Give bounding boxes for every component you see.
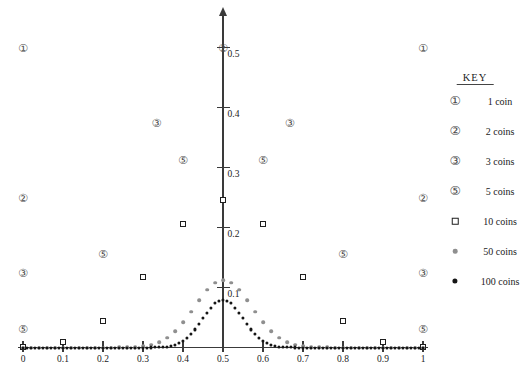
marker-black-dot [297, 346, 300, 349]
marker-black-dot [81, 346, 84, 349]
marker-gray-dot [165, 336, 169, 340]
marker-open-square [300, 274, 306, 280]
marker-open-square [140, 274, 146, 280]
marker-black-dot [241, 317, 244, 320]
marker-gray-dot [261, 321, 265, 325]
marker-black-dot [177, 342, 180, 345]
circled-5-legend-icon: ⑤ [449, 185, 460, 198]
marker-gray-dot [277, 336, 281, 340]
marker-black-dot [65, 346, 68, 349]
marker-black-dot [153, 346, 156, 349]
x-tick-label: 0.1 [57, 354, 69, 364]
marker-black-dot [353, 346, 356, 349]
marker-black-dot [217, 299, 220, 302]
chart-key: KEY ①1 coin②2 coins③3 coins⑤5 coins10 co… [430, 64, 520, 304]
marker-black-dot [201, 317, 204, 320]
y-tick-label: 0.3 [228, 169, 240, 179]
marker-black-dot [385, 346, 388, 349]
y-axis-arrow-icon [219, 7, 227, 16]
circled-1-legend-icon: ① [449, 95, 460, 108]
marker-black-dot [285, 346, 288, 349]
marker-black-dot [321, 346, 324, 349]
legend-label: 100 coins [481, 276, 520, 287]
y-tick-label: 0.4 [228, 109, 240, 119]
marker-gray-dot [181, 321, 185, 325]
marker-black-dot [301, 346, 304, 349]
marker-black-dot [97, 346, 100, 349]
marker-black-dot [145, 346, 148, 349]
marker-open-square [340, 318, 346, 324]
marker-gray-dot [205, 288, 209, 292]
circled-3-legend-icon: ③ [449, 155, 460, 168]
marker-circled-5: ⑤ [258, 155, 268, 166]
marker-black-dot [265, 342, 268, 345]
marker-open-square [260, 221, 266, 227]
marker-black-dot [261, 339, 264, 342]
marker-circled-3: ③ [18, 267, 28, 278]
marker-black-dot [89, 346, 92, 349]
marker-circled-2: ② [418, 192, 428, 203]
marker-black-dot [249, 328, 252, 331]
marker-gray-dot [221, 278, 225, 282]
marker-black-dot [253, 333, 256, 336]
x-tick-label: 0.7 [297, 354, 309, 364]
marker-black-dot [393, 346, 396, 349]
marker-gray-dot [197, 298, 201, 302]
marker-black-dot [361, 346, 364, 349]
y-tick-label: 0.5 [228, 49, 240, 59]
marker-black-dot [197, 323, 200, 326]
x-tick-label: 0.6 [257, 354, 269, 364]
marker-circled-2: ② [218, 42, 228, 53]
x-tick-label: 0.9 [377, 354, 389, 364]
marker-black-dot [173, 343, 176, 346]
marker-gray-dot [189, 310, 193, 314]
circled-2-legend-icon: ② [449, 125, 460, 138]
marker-black-dot [229, 302, 232, 305]
marker-open-square [100, 318, 106, 324]
marker-black-dot [49, 346, 52, 349]
marker-gray-dot [245, 298, 249, 302]
marker-black-dot [57, 346, 60, 349]
legend-label: 5 coins [486, 186, 515, 197]
legend-label: 2 coins [486, 126, 515, 137]
key-title: KEY [457, 72, 494, 85]
marker-black-dot [401, 346, 404, 349]
marker-black-dot [329, 346, 332, 349]
marker-gray-dot [173, 330, 177, 334]
marker-open-square [60, 339, 66, 345]
marker-black-dot [121, 346, 124, 349]
marker-circled-5: ⑤ [418, 323, 428, 334]
x-tick-label: 0.8 [337, 354, 349, 364]
marker-black-dot [25, 346, 28, 349]
marker-black-dot [305, 346, 308, 349]
open-square-legend-icon [452, 218, 459, 225]
marker-black-dot [141, 346, 144, 349]
marker-black-dot [149, 346, 152, 349]
marker-black-dot [221, 298, 224, 301]
x-tick-label: 0.5 [217, 354, 229, 364]
marker-circled-1: ① [18, 42, 28, 53]
marker-gray-dot [269, 330, 273, 334]
marker-black-dot [289, 346, 292, 349]
marker-black-dot [73, 346, 76, 349]
marker-black-dot [185, 336, 188, 339]
marker-black-dot [337, 346, 340, 349]
marker-black-dot [409, 346, 412, 349]
marker-black-dot [269, 343, 272, 346]
y-tick-label: 0.2 [228, 229, 240, 239]
marker-open-square [180, 221, 186, 227]
marker-gray-dot [285, 340, 289, 344]
marker-black-dot [193, 328, 196, 331]
marker-black-dot [157, 346, 160, 349]
black-dot-legend-icon [452, 278, 457, 283]
marker-circled-3: ③ [151, 117, 161, 128]
marker-circled-5: ⑤ [18, 323, 28, 334]
marker-circled-5: ⑤ [338, 248, 348, 259]
marker-black-dot [41, 346, 44, 349]
marker-black-dot [129, 346, 132, 349]
gray-dot-legend-icon [453, 249, 458, 254]
marker-black-dot [245, 323, 248, 326]
marker-black-dot [113, 346, 116, 349]
marker-gray-dot [253, 310, 257, 314]
marker-circled-3: ③ [418, 267, 428, 278]
